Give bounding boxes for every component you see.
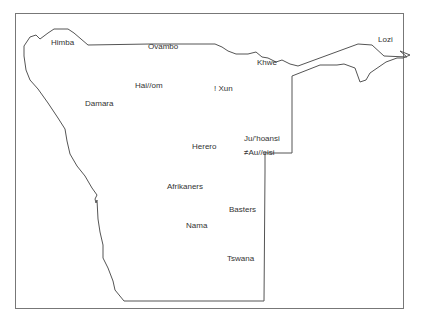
label-herero: Herero: [192, 142, 216, 152]
label-damara: Damara: [85, 99, 113, 109]
label-ovambo: Ovambo: [148, 42, 178, 52]
label-himba: Himba: [51, 38, 74, 48]
label-juhoansi: Ju/'hoansi: [244, 134, 280, 144]
label-tswana: Tswana: [227, 254, 254, 264]
label-basters: Basters: [229, 205, 256, 215]
label-lozi: Lozi: [378, 35, 393, 45]
namibia-outline: [0, 0, 430, 323]
label-afrikaners: Afrikaners: [167, 182, 203, 192]
label-khwe: Khwe: [257, 58, 277, 68]
label-haiom: Hai//om: [135, 81, 163, 91]
label-auleisi: ≠Au//eisi: [244, 148, 275, 158]
country-border: [24, 29, 410, 301]
label-nama: Nama: [186, 221, 207, 231]
label-xun: ! Xun: [214, 84, 233, 94]
